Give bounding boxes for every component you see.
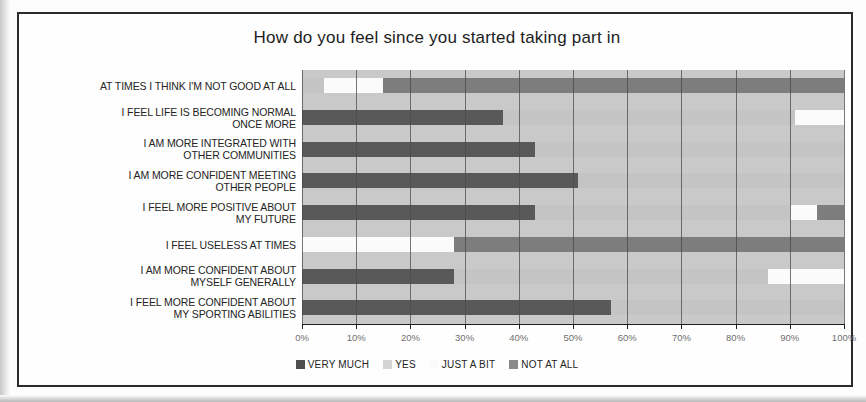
axis-tick [790, 324, 791, 329]
category-label-line: ONCE MORE [121, 118, 296, 130]
axis-tick-label: 50% [563, 332, 582, 343]
bar-row [302, 229, 844, 261]
stacked-bar [302, 269, 844, 284]
stacked-bar [302, 173, 844, 188]
bar-segment [503, 110, 796, 125]
axis-tick [302, 324, 303, 329]
category-label: I AM MORE CONFIDENT ABOUTMYSELF GENERALL… [33, 261, 299, 293]
bar-segment [302, 173, 578, 188]
bar-row [302, 102, 844, 134]
legend-item[interactable]: NOT AT ALL [509, 359, 578, 370]
bar-row [302, 165, 844, 197]
axis-tick [519, 324, 520, 329]
legend-swatch-icon [509, 360, 518, 369]
legend-label: NOT AT ALL [521, 359, 578, 370]
axis-tick-label: 90% [780, 332, 799, 343]
gridline [844, 70, 845, 324]
legend-label: YES [395, 359, 416, 370]
chart-title: How do you feel since you started taking… [19, 28, 855, 48]
category-label: I AM MORE CONFIDENT MEETINGOTHER PEOPLE [33, 165, 299, 197]
bar-row [302, 197, 844, 229]
bar-segment [768, 269, 844, 284]
bar-segment [302, 237, 454, 252]
legend-item[interactable]: VERY MUCH [296, 359, 369, 370]
chart-legend: VERY MUCHYESJUST A BITNOT AT ALL [19, 359, 855, 370]
category-label-line: OTHER PEOPLE [129, 181, 296, 193]
legend-swatch-icon [296, 360, 305, 369]
axis-tick [573, 324, 574, 329]
category-axis-labels: AT TIMES I THINK I'M NOT GOOD AT ALLI FE… [33, 70, 299, 324]
bar-segment [795, 110, 844, 125]
bar-segment [454, 237, 844, 252]
category-label: I FEEL MORE POSITIVE ABOUTMY FUTURE [33, 197, 299, 229]
bar-segment [790, 205, 817, 220]
category-label-line: MY SPORTING ABILITIES [130, 308, 296, 320]
legend-item[interactable]: YES [383, 359, 416, 370]
bar-row [302, 134, 844, 166]
category-label-line: I AM MORE INTEGRATED WITH [144, 137, 296, 149]
bar-segment [302, 300, 611, 315]
axis-tick [356, 324, 357, 329]
bar-segment [302, 269, 454, 284]
category-label-line: I AM MORE CONFIDENT MEETING [129, 169, 296, 181]
legend-swatch-icon [430, 360, 439, 369]
bar-segment [578, 173, 844, 188]
bar-rows [302, 70, 844, 324]
bar-segment [535, 205, 790, 220]
axis-tick-label: 20% [401, 332, 420, 343]
bar-segment [302, 205, 535, 220]
plot-area [302, 70, 844, 324]
category-label-line: I AM MORE CONFIDENT ABOUT [141, 264, 296, 276]
stacked-bar [302, 110, 844, 125]
bar-segment [817, 205, 844, 220]
category-label-line: I FEEL MORE POSITIVE ABOUT [143, 201, 296, 213]
axis-tick-label: 100% [832, 332, 856, 343]
bar-row [302, 70, 844, 102]
category-label-line: I FEEL USELESS AT TIMES [166, 239, 296, 251]
scan-edge-shadow-bottom [0, 395, 866, 402]
axis-tick-label: 40% [509, 332, 528, 343]
bar-segment [535, 142, 844, 157]
stacked-bar [302, 237, 844, 252]
axis-tick [465, 324, 466, 329]
stacked-bar [302, 205, 844, 220]
category-label-line: MY FUTURE [143, 213, 296, 225]
category-label: I FEEL USELESS AT TIMES [33, 229, 299, 261]
category-label-line: MYSELF GENERALLY [141, 276, 296, 288]
bar-segment [302, 78, 324, 93]
scan-edge-shadow-left [0, 0, 10, 402]
bar-row [302, 261, 844, 293]
axis-tick-label: 30% [455, 332, 474, 343]
category-label: AT TIMES I THINK I'M NOT GOOD AT ALL [33, 70, 299, 102]
bar-segment [383, 78, 844, 93]
axis-tick-label: 60% [618, 332, 637, 343]
bar-segment [611, 300, 844, 315]
axis-tick-label: 70% [672, 332, 691, 343]
axis-tick [844, 324, 845, 329]
chart-frame: How do you feel since you started taking… [17, 12, 853, 387]
axis-tick [410, 324, 411, 329]
legend-item[interactable]: JUST A BIT [430, 359, 496, 370]
category-label: I AM MORE INTEGRATED WITHOTHER COMMUNITI… [33, 134, 299, 166]
axis-tick [736, 324, 737, 329]
axis-tick-label: 10% [347, 332, 366, 343]
x-axis: 0%10%20%30%40%50%60%70%80%90%100% [302, 324, 844, 325]
category-label-line: AT TIMES I THINK I'M NOT GOOD AT ALL [100, 80, 296, 92]
category-label-line: I FEEL LIFE IS BECOMING NORMAL [121, 106, 296, 118]
category-label-line: I FEEL MORE CONFIDENT ABOUT [130, 296, 296, 308]
category-label: I FEEL LIFE IS BECOMING NORMALONCE MORE [33, 102, 299, 134]
legend-label: VERY MUCH [308, 359, 369, 370]
bar-row [302, 292, 844, 324]
stacked-bar [302, 142, 844, 157]
axis-tick [627, 324, 628, 329]
category-label-line: OTHER COMMUNITIES [144, 149, 296, 161]
axis-tick-label: 80% [726, 332, 745, 343]
stacked-bar [302, 300, 844, 315]
category-label: I FEEL MORE CONFIDENT ABOUTMY SPORTING A… [33, 292, 299, 324]
bar-segment [302, 110, 503, 125]
bar-segment [454, 269, 768, 284]
stacked-bar [302, 78, 844, 93]
axis-tick [681, 324, 682, 329]
axis-tick-label: 0% [295, 332, 309, 343]
scanned-page: How do you feel since you started taking… [0, 0, 866, 402]
